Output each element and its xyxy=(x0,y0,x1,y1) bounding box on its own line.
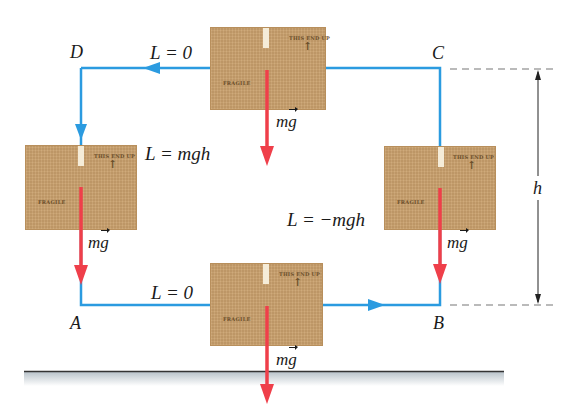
weight-label-right: mg xyxy=(447,233,468,253)
box-tape xyxy=(263,264,269,284)
point-d-label: D xyxy=(70,42,83,63)
box-fragile-label: FRAGILE xyxy=(223,316,251,322)
path-arrow-down-icon xyxy=(75,124,87,140)
work-gravity-diagram: THIS END UP ↑ FRAGILE THIS END UP ↑ FRAG… xyxy=(0,0,571,412)
box-up-arrow-icon: ↑ xyxy=(108,159,117,170)
mass-symbol: m xyxy=(88,233,100,252)
work-da-label: L = mgh xyxy=(145,143,210,165)
point-b-label: B xyxy=(433,313,444,334)
box-top: THIS END UP ↑ FRAGILE xyxy=(210,27,326,110)
gravity-vector-symbol: g xyxy=(100,233,109,253)
path-arrow-right-icon xyxy=(368,299,385,311)
work-cd-label: L = 0 xyxy=(150,42,192,64)
box-tape xyxy=(263,28,269,48)
mass-symbol: m xyxy=(276,112,288,131)
point-c-label: C xyxy=(432,43,444,64)
weight-label-left: mg xyxy=(88,233,109,253)
height-label: h xyxy=(533,178,542,199)
mass-symbol: m xyxy=(447,233,459,252)
mass-symbol: m xyxy=(276,350,288,369)
box-left: THIS END UP ↑ FRAGILE xyxy=(25,145,137,230)
box-fragile-label: FRAGILE xyxy=(38,199,66,205)
box-up-arrow-icon: ↑ xyxy=(293,277,302,288)
work-bc-label: L = −mgh xyxy=(287,209,365,231)
ground xyxy=(24,372,504,387)
work-ab-label: L = 0 xyxy=(151,282,193,304)
weight-label-top: mg xyxy=(276,112,297,132)
box-right: THIS END UP ↑ FRAGILE xyxy=(384,146,496,230)
point-a-label: A xyxy=(70,313,81,334)
box-up-arrow-icon: ↑ xyxy=(467,160,476,171)
weight-label-bottom: mg xyxy=(276,350,297,370)
box-tape xyxy=(78,146,84,166)
box-bottom: THIS END UP ↑ FRAGILE xyxy=(210,263,323,346)
gravity-vector-symbol: g xyxy=(459,233,468,253)
box-fragile-label: FRAGILE xyxy=(223,80,251,86)
box-up-arrow-icon: ↑ xyxy=(303,41,312,52)
dimension-arrow-down-icon xyxy=(535,294,541,304)
box-fragile-label: FRAGILE xyxy=(397,199,425,205)
gravity-vector-symbol: g xyxy=(288,112,297,132)
gravity-vector-symbol: g xyxy=(288,350,297,370)
dimension-arrow-up-icon xyxy=(535,70,541,80)
box-tape xyxy=(438,147,444,167)
